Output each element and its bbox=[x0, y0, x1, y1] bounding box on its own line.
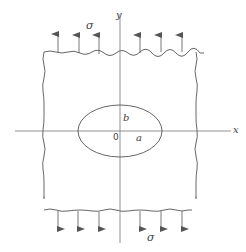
y-axis-label: y bbox=[116, 10, 122, 20]
plate-outline bbox=[43, 48, 204, 211]
plate-left-edge bbox=[43, 52, 45, 199]
plate-right-edge bbox=[195, 52, 197, 199]
x-axis-label: x bbox=[233, 125, 239, 135]
stress-label-top: σ bbox=[86, 20, 94, 31]
stress-label-bottom: σ bbox=[147, 232, 155, 243]
axes bbox=[15, 14, 231, 243]
origin-label: 0 bbox=[113, 133, 119, 142]
plate-top-edge bbox=[44, 48, 204, 56]
elliptical-hole-plate-diagram bbox=[0, 0, 246, 252]
semi-major-axis-label: a bbox=[136, 133, 142, 143]
semi-minor-axis-label: b bbox=[123, 113, 129, 123]
plate-bottom-edge bbox=[44, 209, 192, 211]
